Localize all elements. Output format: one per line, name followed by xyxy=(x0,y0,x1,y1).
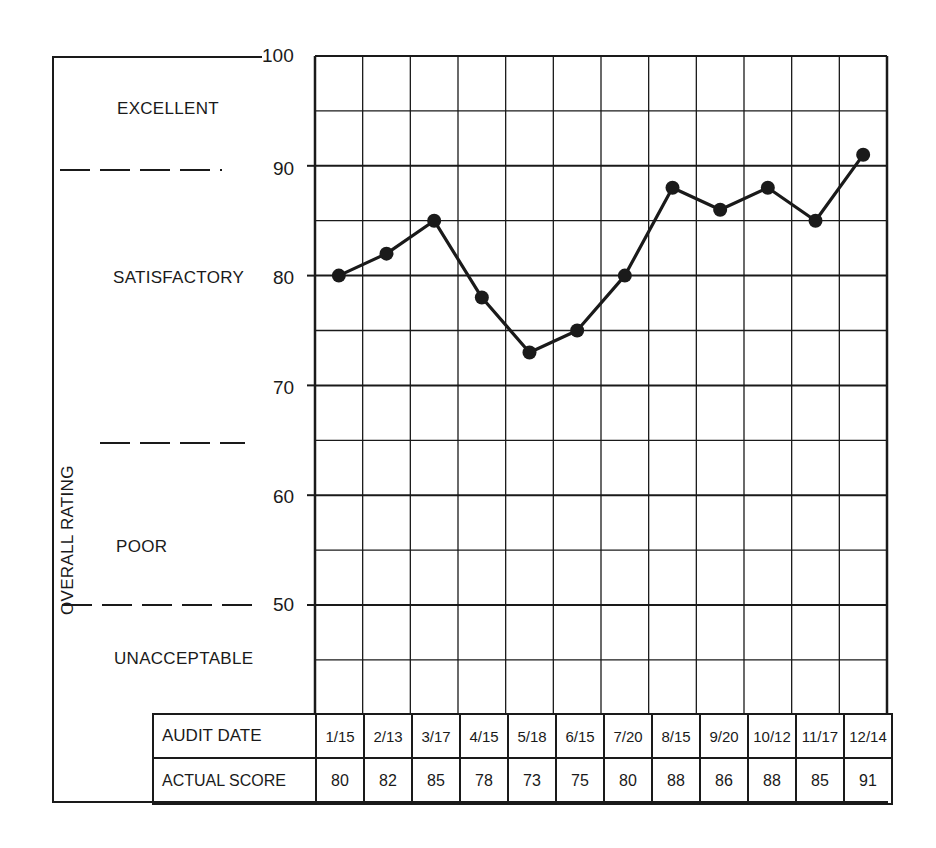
data-point-marker xyxy=(666,181,680,195)
score-cell: 88 xyxy=(652,758,700,804)
date-cell: 7/20 xyxy=(604,714,652,758)
score-cell: 75 xyxy=(556,758,604,804)
score-cell: 78 xyxy=(460,758,508,804)
score-cell: 86 xyxy=(700,758,748,804)
audit-date-row: AUDIT DATE 1/15 2/13 3/17 4/15 5/18 6/15… xyxy=(153,714,892,758)
data-point-marker xyxy=(713,203,727,217)
actual-score-row: ACTUAL SCORE 80 82 85 78 73 75 80 88 86 … xyxy=(153,758,892,804)
data-point-marker xyxy=(427,214,441,228)
score-cell: 85 xyxy=(412,758,460,804)
data-point-marker xyxy=(761,181,775,195)
date-cell: 1/15 xyxy=(316,714,364,758)
date-cell: 5/18 xyxy=(508,714,556,758)
data-point-marker xyxy=(809,214,823,228)
data-point-marker xyxy=(475,291,489,305)
date-cell: 10/12 xyxy=(748,714,796,758)
actual-score-header: ACTUAL SCORE xyxy=(153,758,316,804)
data-point-marker xyxy=(570,324,584,338)
score-cell: 80 xyxy=(316,758,364,804)
data-point-marker xyxy=(856,148,870,162)
score-cell: 91 xyxy=(844,758,892,804)
date-cell: 8/15 xyxy=(652,714,700,758)
date-cell: 4/15 xyxy=(460,714,508,758)
date-cell: 2/13 xyxy=(364,714,412,758)
data-point-marker xyxy=(523,345,537,359)
score-cell: 85 xyxy=(796,758,844,804)
score-cell: 82 xyxy=(364,758,412,804)
score-cell: 88 xyxy=(748,758,796,804)
date-cell: 3/17 xyxy=(412,714,460,758)
date-cell: 9/20 xyxy=(700,714,748,758)
score-cell: 73 xyxy=(508,758,556,804)
audit-table: AUDIT DATE 1/15 2/13 3/17 4/15 5/18 6/15… xyxy=(152,713,893,805)
date-cell: 12/14 xyxy=(844,714,892,758)
score-cell: 80 xyxy=(604,758,652,804)
date-cell: 11/17 xyxy=(796,714,844,758)
data-point-marker xyxy=(332,269,346,283)
audit-date-header: AUDIT DATE xyxy=(153,714,316,758)
data-point-marker xyxy=(380,247,394,261)
data-point-marker xyxy=(618,269,632,283)
y-axis-title: OVERALL RATING xyxy=(58,465,78,615)
date-cell: 6/15 xyxy=(556,714,604,758)
